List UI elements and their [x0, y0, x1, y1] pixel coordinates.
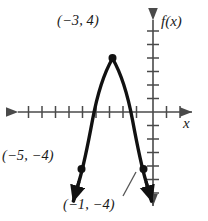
right-branch-arrow: [146, 182, 152, 203]
parabola-path: [74, 59, 152, 202]
y-axis: [147, 20, 159, 206]
point-left-endpoint: [78, 165, 86, 173]
y-axis-label: f(x): [161, 13, 182, 30]
right-endpoint-label: (−1, −4): [63, 196, 115, 213]
vertex-label: (−3, 4): [57, 12, 99, 29]
point-vertex: [109, 54, 117, 62]
left-endpoint-label: (−5, −4): [2, 147, 54, 164]
point-right-endpoint: [140, 165, 148, 173]
graph-canvas: [0, 0, 208, 221]
parabola-figure: (−3, 4) (−5, −4) (−1, −4) f(x) x: [0, 0, 208, 221]
leader-line-right-endpoint: [123, 172, 136, 196]
x-axis: [18, 106, 192, 118]
x-axis-label: x: [183, 115, 190, 132]
parabola-curve: [73, 59, 152, 203]
